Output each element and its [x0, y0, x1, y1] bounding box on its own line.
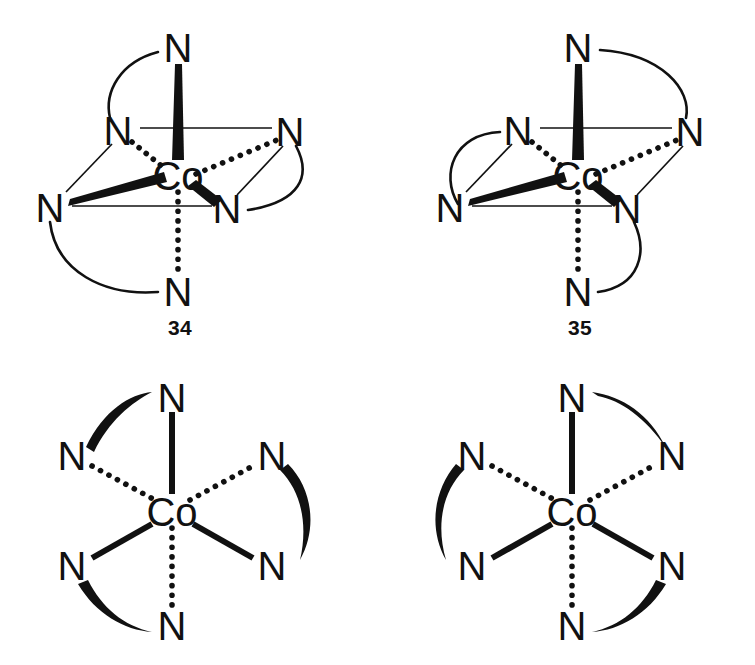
donor-label-upper-left: N — [58, 434, 87, 478]
donor-label-left: N — [36, 186, 65, 230]
donor-label-upper-left: N — [104, 109, 133, 153]
donor-label-lower-left: N — [58, 544, 87, 588]
donor-label-upper-left: N — [504, 109, 533, 153]
chelate-wedge-arc-lowerleft-bottom — [78, 580, 152, 632]
donor-label-lower-left: N — [458, 544, 487, 588]
structure-bottom-right: Co N N N N N N — [400, 360, 755, 665]
bond-solid-lowerright — [593, 524, 653, 558]
metal-center-label: Co — [552, 154, 603, 198]
bond-solid-lowerleft — [492, 524, 552, 558]
donor-label-bottom: N — [158, 604, 187, 648]
chelate-wedge-arc-upperleft-top — [86, 392, 152, 452]
donor-label-upper-right: N — [658, 434, 687, 478]
donor-label-lower-right: N — [658, 544, 687, 588]
compound-number-34: 34 — [150, 316, 210, 340]
donor-label-upper-right: N — [276, 110, 305, 154]
structure-bottom-left: Co N N N N N N — [0, 360, 380, 665]
bond-wedge-top — [572, 64, 584, 160]
donor-label-upper-left: N — [458, 434, 487, 478]
structure-34: Co N N N N N N — [0, 0, 380, 330]
donor-label-bottom: N — [164, 270, 193, 314]
donor-label-top: N — [558, 376, 587, 420]
donor-label-lower-right: N — [613, 187, 642, 231]
structure-35: Co N N N N N N — [400, 0, 755, 330]
donor-label-upper-right: N — [258, 434, 287, 478]
donor-label-bottom: N — [558, 604, 587, 648]
donor-label-top: N — [158, 376, 187, 420]
donor-label-left: N — [436, 186, 465, 230]
chelate-arc-bottom-lowerright — [598, 222, 640, 292]
chelate-arc-left-bottom — [50, 222, 158, 292]
bond-dotted-upperright — [190, 466, 253, 500]
compound-number-35: 35 — [550, 316, 610, 340]
chelate-wedge-arc-lowerright-bottom — [592, 580, 666, 632]
metal-center-label: Co — [546, 490, 597, 534]
chelate-arc-top-upperright — [600, 50, 687, 118]
donor-label-top: N — [564, 26, 593, 70]
bond-dotted-upperright — [596, 140, 677, 174]
bond-dotted-upperright — [196, 140, 277, 174]
chelate-arc-upperright-lowerright — [248, 146, 303, 210]
metal-center-label: Co — [152, 154, 203, 198]
donor-label-bottom: N — [564, 270, 593, 314]
metal-center-label: Co — [146, 490, 197, 534]
donor-label-upper-right: N — [676, 110, 705, 154]
donor-label-lower-right: N — [213, 187, 242, 231]
donor-label-lower-right: N — [258, 544, 287, 588]
bond-solid-lowerright — [193, 524, 253, 558]
bond-wedge-top — [172, 64, 184, 160]
bond-solid-lowerleft — [92, 524, 152, 558]
bond-dotted-upperright — [590, 466, 653, 500]
figure-canvas: Co N N N N N N 34 Co N N N N N N 35 — [0, 0, 755, 665]
chelate-wedge-arc-top-upperright — [592, 392, 666, 448]
donor-label-top: N — [164, 26, 193, 70]
